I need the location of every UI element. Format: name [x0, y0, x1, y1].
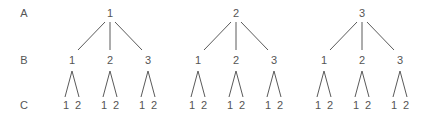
child-node: 2	[233, 54, 239, 66]
child-node: 2	[359, 54, 365, 66]
edge-child-to-leaf	[65, 71, 72, 97]
edge-child-to-leaf	[393, 71, 400, 97]
leaf-node: 2	[151, 99, 157, 111]
edge-root-to-child	[241, 22, 268, 50]
leaf-node: 1	[63, 99, 69, 111]
root-node: 1	[107, 7, 113, 19]
edge-root-to-child	[78, 22, 105, 50]
level-label: C	[20, 99, 28, 111]
edge-child-to-leaf	[72, 71, 79, 97]
edge-child-to-leaf	[324, 71, 331, 97]
edge-child-to-leaf	[400, 71, 407, 97]
edge-child-to-leaf	[274, 71, 281, 97]
leaf-node: 1	[315, 99, 321, 111]
child-node: 1	[69, 54, 75, 66]
child-node: 1	[321, 54, 327, 66]
leaf-node: 2	[113, 99, 119, 111]
root-node: 3	[359, 7, 365, 19]
tree-diagram: ABC 111221231221122123123112212312	[0, 0, 432, 116]
child-node: 3	[145, 54, 151, 66]
level-label: B	[20, 54, 27, 66]
leaf-node: 2	[75, 99, 81, 111]
leaf-node: 1	[101, 99, 107, 111]
leaf-node: 1	[265, 99, 271, 111]
edge-child-to-leaf	[355, 71, 362, 97]
edge-root-to-child	[367, 22, 394, 50]
edge-child-to-leaf	[229, 71, 236, 97]
edge-child-to-leaf	[267, 71, 274, 97]
edge-child-to-leaf	[148, 71, 155, 97]
leaf-node: 1	[353, 99, 359, 111]
leaf-node: 1	[139, 99, 145, 111]
leaf-node: 2	[239, 99, 245, 111]
leaf-node: 2	[327, 99, 333, 111]
edge-child-to-leaf	[362, 71, 369, 97]
child-node: 1	[195, 54, 201, 66]
edge-root-to-child	[330, 22, 357, 50]
child-node: 3	[271, 54, 277, 66]
leaf-node: 1	[189, 99, 195, 111]
edge-child-to-leaf	[141, 71, 148, 97]
child-node: 2	[107, 54, 113, 66]
edge-child-to-leaf	[110, 71, 117, 97]
edge-root-to-child	[115, 22, 142, 50]
leaf-node: 2	[403, 99, 409, 111]
level-labels: ABC	[20, 7, 28, 111]
leaf-node: 2	[201, 99, 207, 111]
child-node: 3	[397, 54, 403, 66]
edge-child-to-leaf	[236, 71, 243, 97]
leaf-node: 1	[227, 99, 233, 111]
leaf-node: 2	[277, 99, 283, 111]
leaf-node: 2	[365, 99, 371, 111]
edge-child-to-leaf	[191, 71, 198, 97]
edge-child-to-leaf	[198, 71, 205, 97]
edge-child-to-leaf	[103, 71, 110, 97]
leaf-node: 1	[391, 99, 397, 111]
level-label: A	[20, 7, 28, 19]
edge-child-to-leaf	[317, 71, 324, 97]
edge-root-to-child	[204, 22, 231, 50]
root-node: 2	[233, 7, 239, 19]
